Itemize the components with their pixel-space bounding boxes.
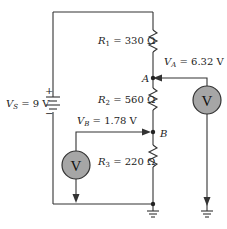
r2-label: R2 = 560 Ω (97, 94, 155, 107)
arrow-meter-b-down-icon (73, 194, 80, 203)
node-b-dot (151, 130, 155, 134)
arrow-to-node-b-icon (142, 129, 151, 136)
arrow-meter-a-down-icon (204, 197, 211, 206)
ground-icon-main (147, 211, 159, 217)
meter-a-lead-top (160, 78, 207, 86)
node-a-dot (151, 76, 155, 80)
ground-icon-meter (201, 206, 213, 217)
battery-minus-sign: − (45, 108, 53, 119)
node-bottom-dot (151, 202, 155, 206)
node-b-label: B (159, 128, 167, 139)
voltmeter-b-label: V (71, 158, 82, 174)
node-a-voltage-label: VA = 6.32 V (164, 56, 224, 69)
circuit-diagram: V V + − VS = 9 V R1 = 330 Ω R2 = 560 Ω R… (0, 0, 227, 229)
battery-plus-sign: + (45, 85, 53, 96)
r1-label: R1 = 330 Ω (97, 35, 155, 48)
source-label: VS = 9 V (6, 98, 50, 111)
meter-b-lead-top (76, 132, 146, 151)
node-b-voltage-label: VB = 1.78 V (77, 115, 138, 128)
voltmeter-b: V (62, 151, 90, 179)
voltmeter-a: V (193, 86, 221, 114)
r3-label: R3 = 220 Ω (97, 156, 155, 169)
node-a-label: A (141, 73, 149, 84)
voltmeter-a-label: V (202, 93, 213, 109)
